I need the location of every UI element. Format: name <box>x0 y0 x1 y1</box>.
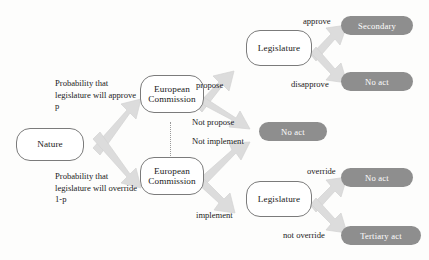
node-nature[interactable]: Nature <box>16 128 84 161</box>
node-european-commission-top-label-line2: Commission <box>148 94 195 104</box>
terminal-secondary-label: Secondary <box>358 21 396 31</box>
edge-label-not-override: not override <box>283 230 325 242</box>
node-legislature-top[interactable]: Legislature <box>246 30 312 66</box>
node-legislature-bottom-label: Legislature <box>258 194 300 204</box>
game-tree-diagram: Nature European Commission European Comm… <box>0 0 429 260</box>
edge-label-override: override <box>307 166 336 178</box>
terminal-no-act-top[interactable]: No act <box>341 72 413 91</box>
terminal-secondary[interactable]: Secondary <box>341 16 413 35</box>
node-european-commission-bottom-label-line2: Commission <box>148 176 195 186</box>
node-legislature-top-label: Legislature <box>258 43 300 53</box>
terminal-no-act-bottom[interactable]: No act <box>341 168 413 187</box>
terminal-tertiary-act-label: Tertiary act <box>360 231 402 241</box>
edge-label-probability-override: Probability that legislature will overri… <box>55 171 141 206</box>
edge-label-disapprove: disapprove <box>291 79 329 91</box>
node-european-commission-top[interactable]: European Commission <box>140 75 204 113</box>
terminal-no-act-top-label: No act <box>365 77 389 87</box>
edge-label-approve: approve <box>303 16 331 28</box>
terminal-no-act-middle-label: No act <box>281 127 305 137</box>
edge-label-not-implement: Not implement <box>192 136 244 148</box>
terminal-no-act-bottom-label: No act <box>365 173 389 183</box>
terminal-tertiary-act[interactable]: Tertiary act <box>341 226 421 245</box>
edge-label-propose: propose <box>196 80 223 92</box>
node-nature-label: Nature <box>37 139 63 149</box>
node-european-commission-bottom-label-line1: European <box>154 166 190 176</box>
node-european-commission-bottom[interactable]: European Commission <box>140 157 204 195</box>
arrow-ec-bottom-not-implement <box>198 142 250 187</box>
terminal-no-act-middle[interactable]: No act <box>259 122 327 141</box>
edge-label-probability-approve: Probability that legislature will approv… <box>55 78 141 113</box>
node-european-commission-top-label-line1: European <box>154 84 190 94</box>
information-set-line <box>170 122 171 158</box>
edge-label-implement: implement <box>196 210 233 222</box>
arrow-legislature-bottom-not-override <box>311 198 347 233</box>
node-legislature-bottom[interactable]: Legislature <box>246 181 312 217</box>
edge-label-not-propose: Not propose <box>192 117 234 129</box>
